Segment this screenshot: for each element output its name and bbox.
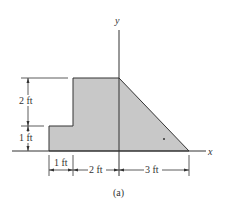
y-axis-label: y	[114, 15, 120, 26]
arrow-head	[27, 121, 30, 126]
centroid-marker	[163, 138, 165, 140]
composite-area-diagram: x y 2 ft 1 ft 1 ft 2 ft 3 ft (a)	[0, 0, 226, 212]
dim-label-1ft-vertical: 1 ft	[19, 132, 33, 143]
dim-label-2ft-vertical: 2 ft	[19, 95, 33, 106]
dim-label-2ft-horizontal: 2 ft	[89, 164, 103, 175]
arrow-head	[119, 169, 124, 172]
x-axis-label: x	[207, 146, 213, 157]
arrow-head	[68, 169, 73, 172]
dim-label-3ft-horizontal: 3 ft	[145, 164, 159, 175]
arrow-head	[114, 169, 119, 172]
arrow-head	[184, 169, 189, 172]
arrow-head	[27, 126, 30, 131]
arrow-head	[49, 169, 54, 172]
figure-caption: (a)	[113, 187, 124, 199]
arrow-head	[73, 169, 78, 172]
arrow-head	[27, 78, 30, 83]
arrow-head	[27, 146, 30, 151]
dim-label-1ft-horizontal: 1 ft	[54, 157, 68, 168]
